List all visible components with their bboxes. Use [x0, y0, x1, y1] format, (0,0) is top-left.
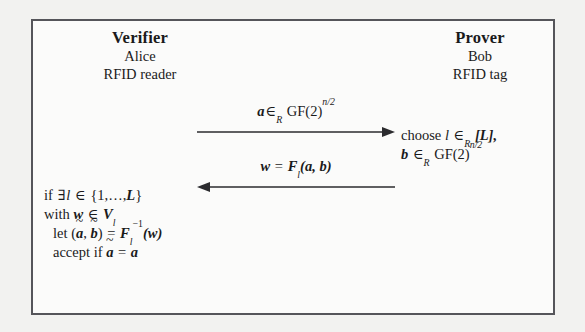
message-verifier-to-prover: a∈R GF(2)n/2: [196, 104, 396, 140]
verifier-a-tilde-1: ~a: [76, 224, 83, 243]
verifier-accept-keyword: accept if: [53, 244, 103, 260]
verifier-name-label: Alice: [42, 48, 238, 66]
message-2-label: w = Fl(a, b): [196, 159, 396, 181]
verifier-b-tilde: ~b: [90, 224, 97, 243]
prover-computation-line-2: b ∈R GF(2)n/2: [401, 145, 497, 164]
message-prover-to-verifier: w = Fl(a, b): [196, 159, 396, 195]
prover-party-header: Prover Bob RFID tag: [392, 28, 568, 84]
verifier-a-tilde-2: ~a: [106, 243, 113, 262]
verifier-party-header: Verifier Alice RFID reader: [42, 28, 238, 84]
prover-choose-verb: choose: [401, 127, 441, 143]
verifier-computation-block: if ∃l ∈ {1,…,L} with w ∈ Vl let (~a, ~b)…: [44, 186, 162, 263]
prover-name-label: Bob: [392, 48, 568, 66]
verifier-pair-comma: ,: [83, 225, 87, 241]
message-2-equals: =: [274, 158, 284, 174]
prover-b-var: b: [401, 146, 408, 162]
message-1-member-icon: ∈R: [264, 103, 283, 119]
verifier-let-keyword: let: [53, 225, 68, 241]
verifier-inverse-arg: (w): [143, 225, 162, 241]
verifier-computation-line-3: let (~a, ~b) = Fl−1(w): [44, 224, 162, 243]
verifier-if-keyword: if: [44, 187, 53, 203]
verifier-set-close: }: [135, 187, 142, 203]
prover-member-icon-1: ∈R: [453, 127, 472, 143]
message-1-exponent: n/2: [322, 96, 335, 107]
message-2-func-sub: l: [297, 169, 300, 180]
verifier-equals-2: =: [117, 244, 127, 260]
verifier-inverse-func-sup: −1: [132, 218, 142, 229]
prover-member-sub-2: R: [424, 157, 430, 168]
verifier-computation-line-1: if ∃l ∈ {1,…,L}: [44, 186, 162, 205]
arrow-left-icon: [196, 181, 396, 195]
prover-role-label: Prover: [392, 28, 568, 48]
prover-computation-block: choose l ∈R [L], b ∈R GF(2)n/2: [401, 126, 497, 164]
tilde-icon: ~: [76, 215, 83, 229]
prover-computation-line-1: choose l ∈R [L],: [401, 126, 497, 145]
verifier-inverse-func: F: [120, 225, 130, 241]
verifier-set-bound: L: [126, 187, 135, 203]
verifier-set-open: {1,: [90, 187, 108, 203]
message-2-args: (a, b): [300, 158, 331, 174]
verifier-member-icon-1: ∈: [74, 187, 87, 203]
prover-index-var: l: [445, 127, 449, 143]
tilde-icon: ~: [106, 234, 113, 248]
prover-exponent: n/2: [470, 139, 483, 150]
exists-icon: ∃: [56, 187, 66, 203]
protocol-figure: Verifier Alice RFID reader Prover Bob RF…: [0, 0, 585, 332]
verifier-device-label: RFID reader: [42, 66, 238, 84]
prover-device-label: RFID tag: [392, 66, 568, 84]
message-1-label: a∈R GF(2)n/2: [196, 104, 396, 126]
prover-member-icon-2: ∈R: [412, 146, 431, 162]
verifier-role-label: Verifier: [42, 28, 238, 48]
verifier-index-var: l: [66, 187, 70, 203]
message-1-field: GF(2): [287, 103, 322, 119]
verifier-computation-line-4: accept if ~a = a: [44, 243, 162, 262]
message-2-func: F: [288, 158, 298, 174]
verifier-computation-line-2: with w ∈ Vl: [44, 205, 162, 224]
verifier-pair-close: ): [98, 225, 103, 241]
tilde-icon: ~: [90, 215, 97, 229]
message-2-var: w: [261, 158, 271, 174]
verifier-with-keyword: with: [44, 206, 70, 222]
verifier-set-v: V: [103, 206, 113, 222]
message-1-member-sub: R: [276, 114, 282, 125]
arrow-right-icon: [196, 126, 396, 140]
ellipsis-icon: …: [108, 187, 123, 203]
